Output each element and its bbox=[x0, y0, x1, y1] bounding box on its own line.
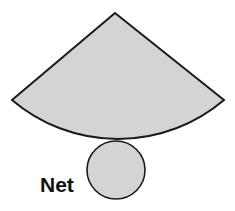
cone-base-circle bbox=[87, 141, 145, 199]
cone-net-diagram bbox=[0, 0, 235, 211]
cone-lateral-sector bbox=[12, 13, 224, 139]
net-label: Net bbox=[40, 174, 74, 195]
